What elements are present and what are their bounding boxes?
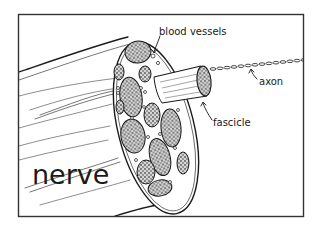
label-fascicle: fascicle xyxy=(213,117,251,128)
nerve-diagram: blood vessels axon fascicle nerve xyxy=(0,0,321,231)
label-axon: axon xyxy=(259,76,283,87)
label-blood-vessels: blood vessels xyxy=(159,26,227,37)
label-nerve: nerve xyxy=(32,159,109,190)
